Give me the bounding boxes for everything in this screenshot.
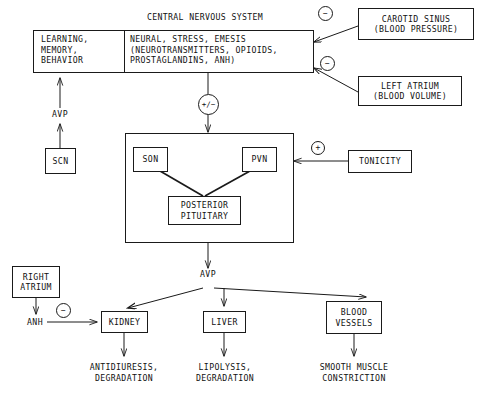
carotid-sinus-box: CAROTID SINUS (BLOOD PRESSURE) [358, 8, 474, 40]
avp-scn-label: AVP [44, 109, 76, 120]
anh-label: ANH [20, 317, 50, 328]
son-label: SON [143, 154, 159, 165]
cns-hypothalamus-sign-glyph: +/− [202, 101, 216, 109]
right-atrium-box: RIGHT ATRIUM [12, 266, 60, 298]
anh-sign-glyph: − [61, 307, 66, 315]
posterior-pituitary-label: POSTERIOR PITUITARY [181, 200, 229, 221]
son-box: SON [133, 147, 168, 172]
blood-vessels-label: BLOOD VESSELS [336, 307, 373, 328]
cns-right-compartment-label: NEURAL, STRESS, EMESIS (NEUROTRANSMITTER… [130, 34, 310, 66]
avp-output-label: AVP [192, 269, 224, 280]
right-atrium-label: RIGHT ATRIUM [20, 272, 52, 293]
kidney-label: KIDNEY [109, 317, 141, 328]
left-atrium-minus-sign-icon: − [320, 56, 335, 71]
tonicity-box: TONICITY [348, 150, 412, 173]
lipolysis-label: LIPOLYSIS, DEGRADATION [170, 362, 280, 383]
left-atrium-label: LEFT ATRIUM (BLOOD VOLUME) [373, 81, 447, 102]
smooth-muscle-label: SMOOTH MUSCLE CONSTRICTION [294, 362, 414, 383]
left-atrium-box: LEFT ATRIUM (BLOOD VOLUME) [358, 76, 462, 106]
edge-avp-to-kidney [128, 288, 203, 308]
antidiuresis-label: ANTIDIURESIS, DEGRADATION [66, 362, 182, 383]
cns-divider [124, 30, 125, 73]
tonicity-plus-sign-icon: + [311, 141, 325, 155]
scn-label: SCN [53, 156, 69, 167]
posterior-pituitary-box: POSTERIOR PITUITARY [168, 196, 241, 225]
pvn-label: PVN [252, 154, 268, 165]
carotid-sinus-minus-sign-icon: − [318, 6, 333, 21]
scn-box: SCN [45, 148, 76, 174]
blood-vessels-box: BLOOD VESSELS [326, 301, 382, 334]
edge-carotid-to-cns [314, 26, 358, 42]
avp-regulation-diagram: CENTRAL NERVOUS SYSTEM LEARNING, MEMORY,… [0, 0, 482, 397]
kidney-box: KIDNEY [101, 311, 148, 333]
tonicity-sign-glyph: + [316, 144, 321, 152]
carotid-sinus-sign-glyph: − [323, 10, 328, 18]
cns-title: CENTRAL NERVOUS SYSTEM [85, 12, 325, 23]
edge-left-atrium-to-cns [314, 68, 358, 92]
left-atrium-sign-glyph: − [325, 60, 330, 68]
pvn-box: PVN [242, 147, 277, 172]
carotid-sinus-label: CAROTID SINUS (BLOOD PRESSURE) [374, 14, 458, 35]
edge-avp-to-blood-vessels [214, 288, 366, 297]
liver-box: LIVER [203, 311, 246, 333]
liver-label: LIVER [211, 317, 237, 328]
cns-hypothalamus-plusminus-sign-icon: +/− [198, 94, 219, 115]
tonicity-label: TONICITY [359, 156, 401, 167]
cns-left-compartment-label: LEARNING, MEMORY, BEHAVIOR [41, 34, 123, 66]
anh-minus-sign-icon: − [56, 303, 71, 318]
